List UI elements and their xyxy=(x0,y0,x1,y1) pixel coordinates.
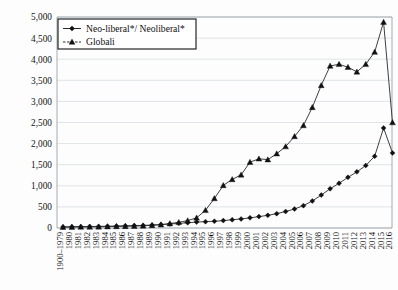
data-point-marker xyxy=(256,156,262,161)
data-point-marker xyxy=(283,209,288,214)
y-tick-label: 2,000 xyxy=(31,139,52,149)
legend-label: Neo-liberal*/ Neoliberal* xyxy=(86,23,185,34)
series-line-0 xyxy=(63,128,392,227)
line-chart: 05001,0001,5002,0002,5003,0003,5004,0004… xyxy=(0,0,398,290)
y-tick-label: 4,500 xyxy=(31,34,52,44)
data-point-marker xyxy=(372,49,378,54)
data-point-marker xyxy=(336,61,342,66)
plot-lines xyxy=(63,22,392,227)
data-point-marker xyxy=(203,219,208,224)
legend-label: Globali xyxy=(86,36,115,47)
data-point-marker xyxy=(248,215,253,220)
data-point-marker xyxy=(381,19,387,24)
data-point-marker xyxy=(309,104,315,109)
y-tick-label: 3,500 xyxy=(31,76,52,86)
data-point-marker xyxy=(221,218,226,223)
data-point-marker xyxy=(212,219,217,224)
data-point-marker xyxy=(239,216,244,221)
y-tick-label: 1,000 xyxy=(31,181,52,191)
data-point-marker xyxy=(211,196,217,201)
data-point-marker xyxy=(318,82,324,87)
data-point-marker xyxy=(265,213,270,218)
data-point-marker xyxy=(301,123,307,128)
data-point-marker xyxy=(337,181,342,186)
data-point-marker xyxy=(229,177,235,182)
data-point-marker xyxy=(220,182,226,187)
y-tick-label: 1,500 xyxy=(31,160,52,170)
data-point-marker xyxy=(310,198,315,203)
x-tick-label: 2016 xyxy=(384,231,394,249)
data-point-marker xyxy=(256,214,261,219)
y-tick-label: 0 xyxy=(47,223,52,233)
y-tick-label: 3,000 xyxy=(31,97,52,107)
data-point-marker xyxy=(381,125,386,130)
data-point-marker xyxy=(390,150,395,155)
chart-legend: Neo-liberal*/ Neoliberal*Globali xyxy=(58,19,196,49)
y-tick-label: 5,000 xyxy=(31,12,52,22)
y-tick-label: 2,500 xyxy=(31,118,52,128)
series-line-1 xyxy=(63,22,392,227)
y-axis-labels: 05001,0001,5002,0002,5003,0003,5004,0004… xyxy=(31,12,52,233)
x-axis-labels: 1900–19791980198119821983198419851986198… xyxy=(55,231,394,270)
data-point-marker xyxy=(345,175,350,180)
data-point-marker xyxy=(301,203,306,208)
plot-markers xyxy=(60,19,395,229)
data-point-marker xyxy=(230,217,235,222)
y-tick-label: 500 xyxy=(38,202,52,212)
chart-container: 05001,0001,5002,0002,5003,0003,5004,0004… xyxy=(0,0,398,290)
data-point-marker xyxy=(274,211,279,216)
y-tick-label: 4,000 xyxy=(31,55,52,65)
